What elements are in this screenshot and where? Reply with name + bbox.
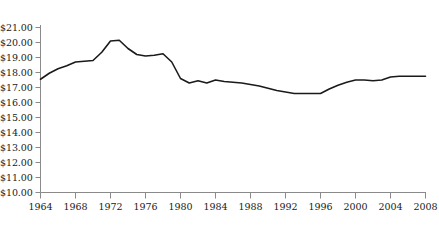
x-tick-label: 2008	[406, 201, 439, 212]
y-tick-label: $12.00	[0, 157, 32, 168]
x-tick-label: 1984	[196, 201, 236, 212]
y-tick-label: $20.00	[0, 37, 32, 48]
y-tick-label: $19.00	[0, 52, 32, 63]
chart-canvas	[0, 0, 439, 232]
y-tick-label: $17.00	[0, 82, 32, 93]
x-tick-label: 2004	[371, 201, 411, 212]
y-tick-label: $15.00	[0, 112, 32, 123]
data-series-line	[41, 40, 426, 93]
y-axis	[36, 25, 41, 193]
x-tick-label: 1972	[91, 201, 131, 212]
x-tick-label: 1964	[21, 201, 61, 212]
x-tick-label: 1968	[56, 201, 96, 212]
x-axis	[41, 193, 427, 199]
y-tick-label: $21.00	[0, 22, 32, 33]
y-tick-label: $13.00	[0, 142, 32, 153]
x-tick-label: 1996	[301, 201, 341, 212]
x-tick-label: 1992	[266, 201, 306, 212]
x-tick-label: 1976	[126, 201, 166, 212]
y-tick-label: $10.00	[0, 187, 32, 198]
line-chart: $21.00$20.00$19.00$18.00$17.00$16.00$15.…	[0, 0, 439, 232]
x-tick-label: 1988	[231, 201, 271, 212]
y-tick-label: $11.00	[0, 172, 32, 183]
y-tick-label: $14.00	[0, 127, 32, 138]
y-tick-label: $18.00	[0, 67, 32, 78]
x-tick-label: 1980	[161, 201, 201, 212]
x-tick-label: 2000	[336, 201, 376, 212]
y-tick-label: $16.00	[0, 97, 32, 108]
x-axis-ticks	[41, 193, 426, 199]
y-axis-ticks	[36, 28, 41, 193]
